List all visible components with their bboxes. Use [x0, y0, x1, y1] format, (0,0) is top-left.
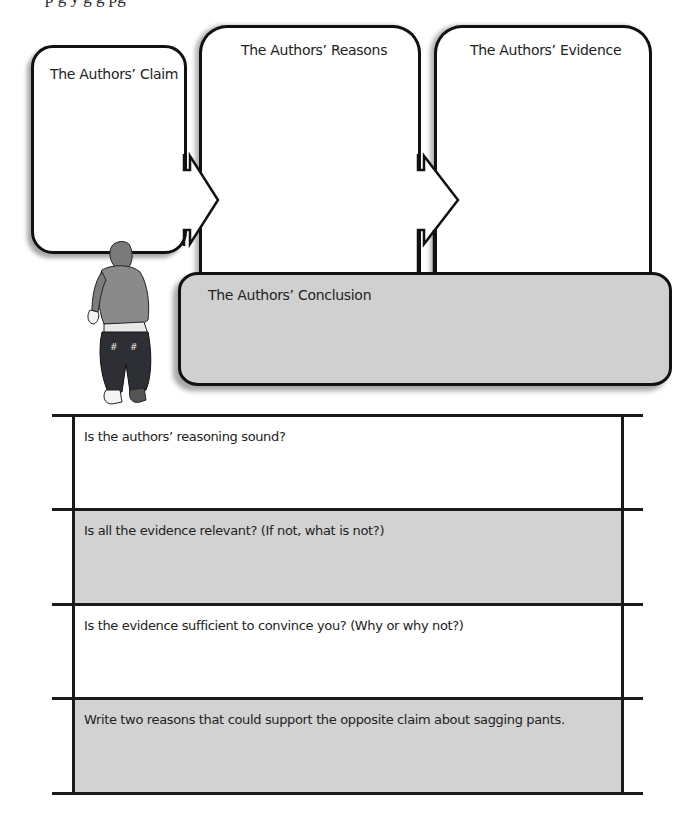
teen-figure-icon: # # [82, 240, 158, 410]
svg-text:#: # [130, 342, 138, 352]
table-divider [52, 508, 643, 511]
evidence-title: The Authors’ Evidence [470, 42, 621, 58]
question-row[interactable]: Is the authors’ reasoning sound? [74, 417, 622, 509]
clipped-header-text: p g y g g pg [45, 0, 465, 8]
conclusion-title: The Authors’ Conclusion [208, 287, 371, 303]
claim-box[interactable]: The Authors’ Claim [31, 45, 187, 254]
question-row[interactable]: Is the evidence sufficient to convince y… [74, 606, 622, 698]
arrow-right-icon [180, 150, 225, 250]
conclusion-box[interactable]: The Authors’ Conclusion [178, 272, 672, 386]
svg-text:#: # [110, 342, 118, 352]
reasons-box[interactable]: The Authors’ Reasons [199, 25, 421, 287]
question-prompt: Is all the evidence relevant? (If not, w… [84, 523, 384, 538]
reasons-title: The Authors’ Reasons [241, 42, 387, 58]
question-row[interactable]: Is all the evidence relevant? (If not, w… [74, 511, 622, 603]
table-divider [52, 697, 643, 700]
question-row[interactable]: Write two reasons that could support the… [74, 700, 622, 792]
table-border-left [72, 414, 75, 795]
table-border-right [621, 414, 624, 795]
evidence-box[interactable]: The Authors’ Evidence [434, 25, 652, 287]
question-prompt: Write two reasons that could support the… [84, 712, 565, 727]
table-divider [52, 792, 643, 795]
question-prompt: Is the evidence sufficient to convince y… [84, 618, 464, 633]
arrow-right-icon [414, 150, 464, 272]
claim-title: The Authors’ Claim [50, 66, 178, 82]
table-divider [52, 414, 643, 417]
question-prompt: Is the authors’ reasoning sound? [84, 429, 285, 444]
table-divider [52, 603, 643, 606]
